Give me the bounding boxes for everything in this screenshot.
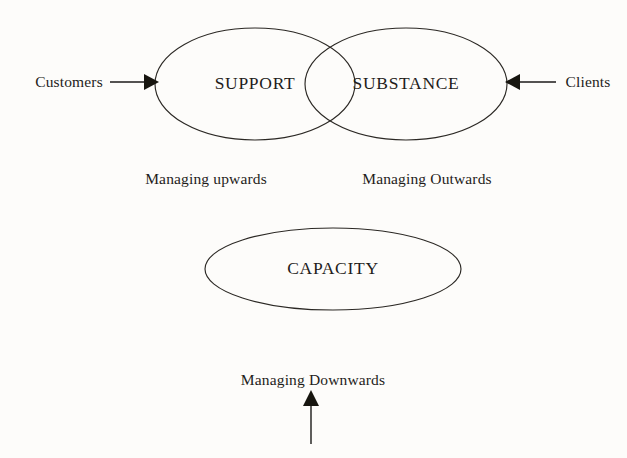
customers-arrow-head bbox=[144, 74, 159, 90]
substance-label: SUBSTANCE bbox=[352, 75, 459, 93]
capacity-label: CAPACITY bbox=[287, 260, 379, 278]
diagram-canvas: SUPPORT SUBSTANCE CAPACITY Customers Cli… bbox=[0, 0, 627, 458]
customers-label: Customers bbox=[35, 74, 103, 90]
clients-label: Clients bbox=[566, 74, 611, 90]
managing-outwards-caption: Managing Outwards bbox=[362, 171, 492, 187]
diagram-vector-layer bbox=[0, 0, 627, 458]
downwards-arrow-head bbox=[303, 390, 319, 406]
managing-downwards-caption: Managing Downwards bbox=[241, 372, 385, 388]
support-label: SUPPORT bbox=[215, 75, 296, 93]
managing-upwards-caption: Managing upwards bbox=[145, 171, 267, 187]
